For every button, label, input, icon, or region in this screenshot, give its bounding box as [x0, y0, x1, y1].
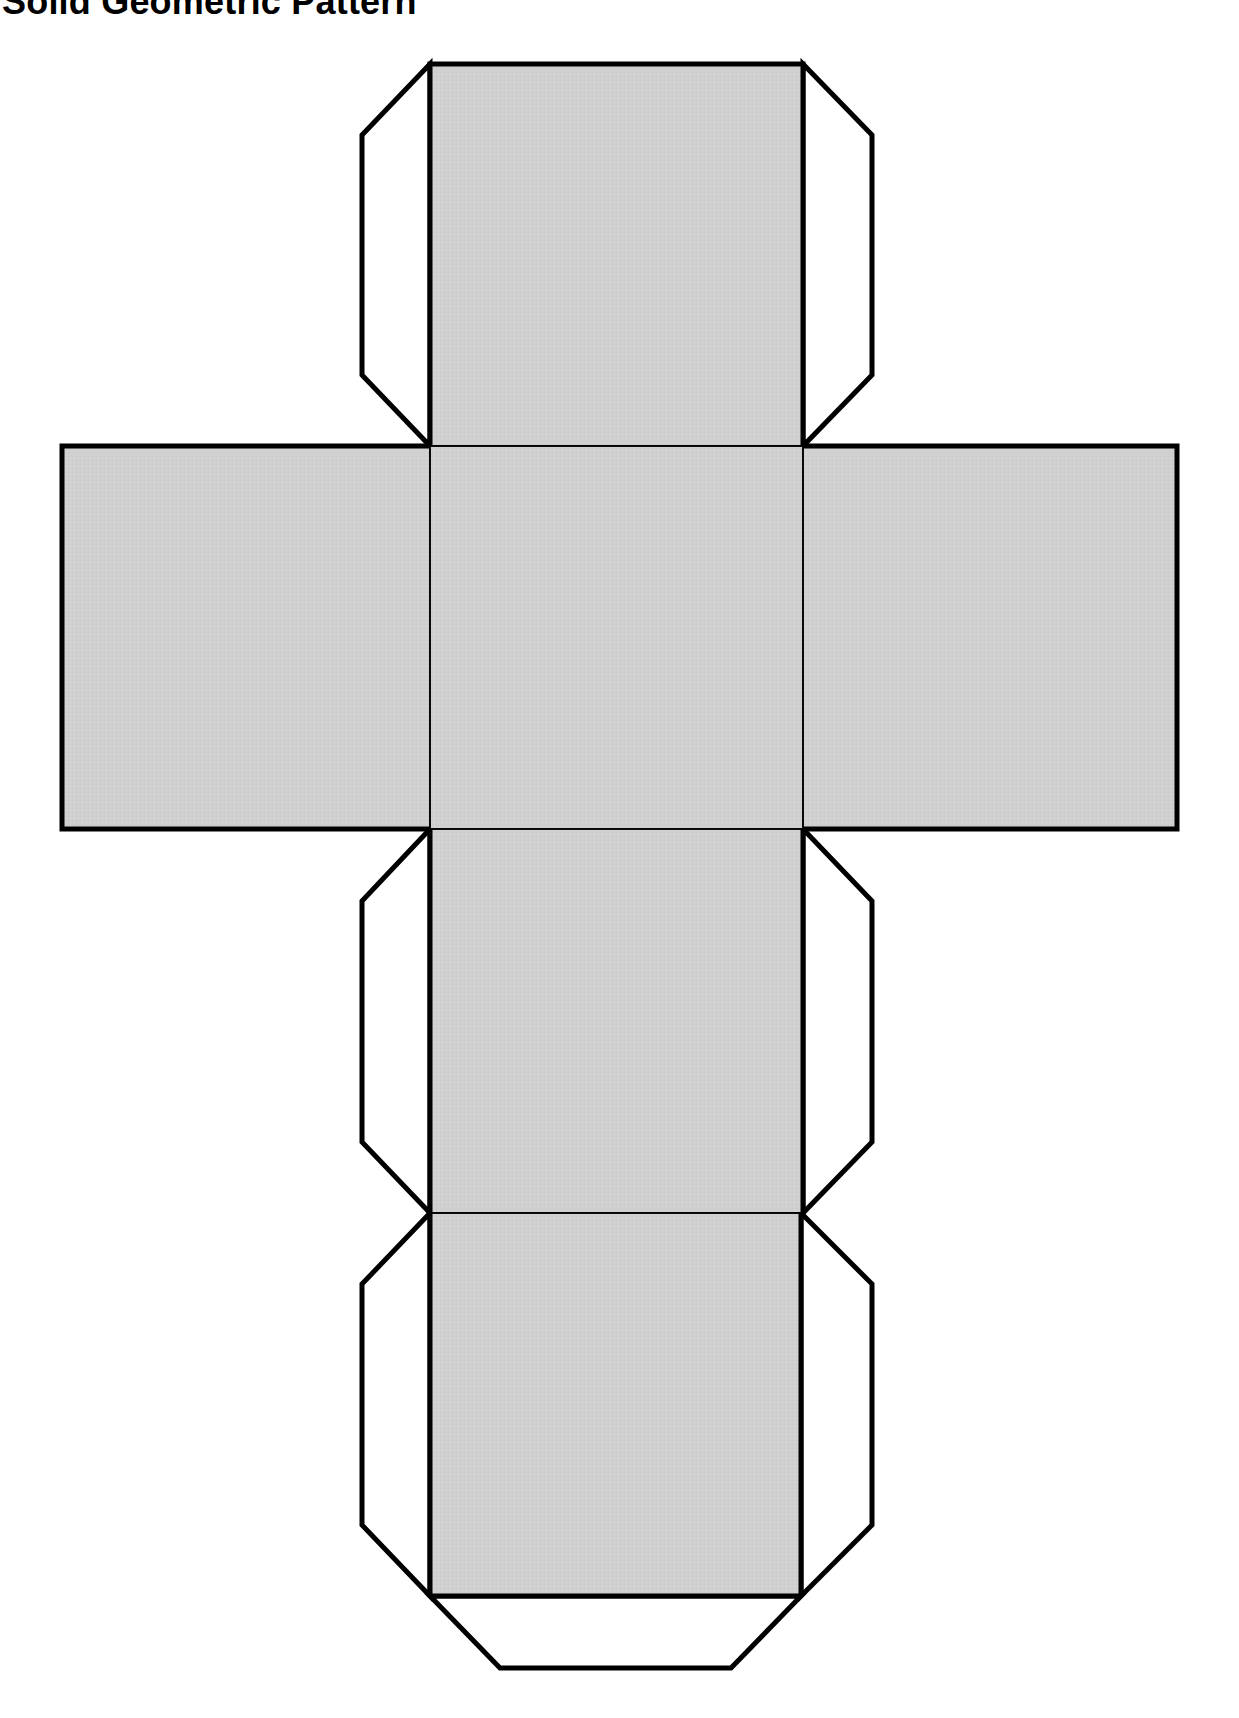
lower-face-1 [430, 829, 803, 1213]
flap-lower1-right [803, 829, 872, 1213]
flap-bottom-end [430, 1596, 801, 1668]
flap-top-right [803, 64, 872, 446]
flap-top-left [362, 64, 430, 446]
flap-bottom-left [362, 1213, 430, 1596]
cube-net-diagram [0, 0, 1239, 1718]
right-face [803, 446, 1177, 829]
flap-bottom-right [801, 1213, 872, 1596]
top-face [430, 64, 803, 446]
left-face [62, 446, 430, 829]
flap-lower1-left [362, 829, 430, 1213]
bottom-face [430, 1213, 801, 1596]
center-face [430, 446, 803, 829]
